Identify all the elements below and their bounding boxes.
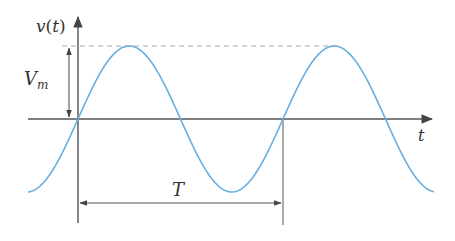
amplitude-label: Vm	[24, 68, 48, 92]
sine-wave-diagram: v(t) Vm t T	[0, 0, 455, 241]
period-label: T	[172, 179, 186, 200]
y-axis-label: v(t)	[36, 16, 66, 36]
x-axis-label: t	[418, 126, 425, 145]
